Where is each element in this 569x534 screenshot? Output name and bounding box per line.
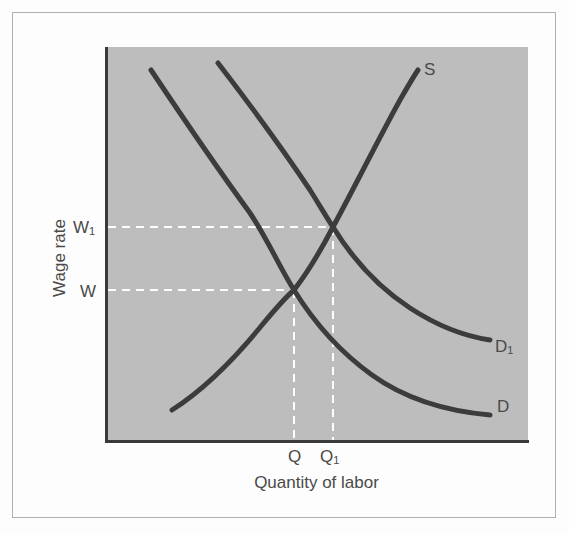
plot-area: [105, 47, 528, 442]
x-tick-q1-subscript: 1: [333, 454, 339, 466]
y-tick-w1-subscript: 1: [89, 225, 95, 237]
figure-container: Wage rate W1 W Q Q1 Quantity of labor S …: [0, 0, 569, 534]
curve-label-demand-shifted: D1: [495, 338, 513, 355]
x-tick-label-q: Q: [288, 448, 301, 465]
curve-label-d-text: D: [497, 397, 509, 416]
curve-label-demand: D: [497, 398, 509, 415]
x-axis-line: [105, 440, 529, 443]
y-tick-w-text: W: [80, 282, 96, 301]
x-axis-title: Quantity of labor: [105, 473, 528, 493]
y-axis-line: [105, 47, 108, 443]
curve-label-d1-text: D: [495, 337, 507, 356]
y-axis-title: Wage rate: [50, 188, 70, 328]
curve-label-d1-subscript: 1: [507, 344, 513, 356]
y-tick-label-w: W: [80, 283, 96, 300]
x-tick-q1-text: Q: [320, 447, 333, 466]
x-tick-q-text: Q: [288, 447, 301, 466]
y-tick-w1-text: W: [73, 218, 89, 237]
curve-label-s-text: S: [424, 60, 435, 79]
curve-label-supply: S: [424, 61, 435, 78]
y-tick-label-w1: W1: [73, 219, 95, 236]
x-tick-label-q1: Q1: [320, 448, 339, 465]
